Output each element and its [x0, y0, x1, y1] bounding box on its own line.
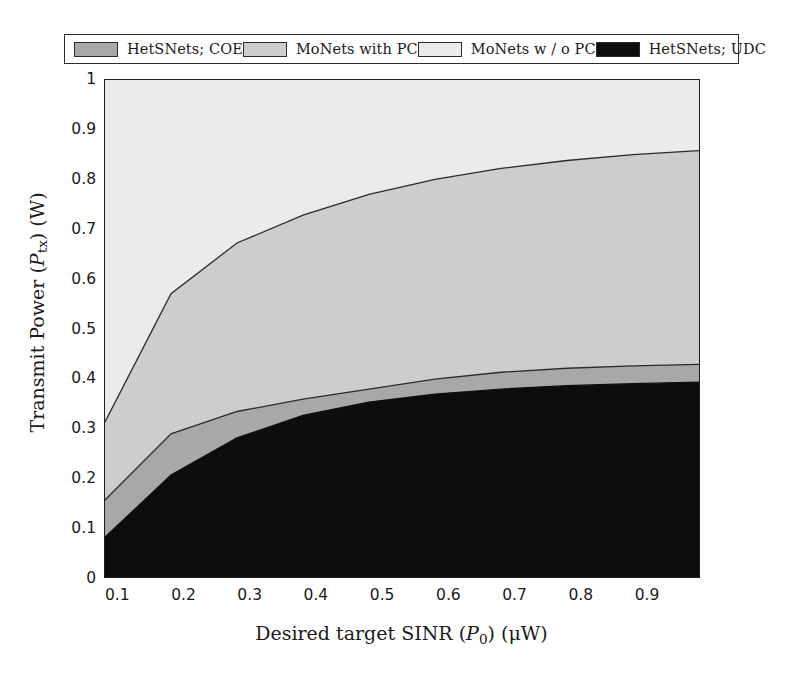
y-tick-0p4: 0.4	[58, 369, 96, 387]
y-tick-0: 0	[58, 569, 96, 587]
stacked-area-svg	[105, 80, 699, 577]
legend-label-hetsnets-coe: HetSNets; COE	[127, 41, 243, 57]
legend-swatch-monets-without-pc	[418, 42, 462, 57]
legend-label-hetsnets-udc: HetSNets; UDC	[649, 41, 766, 57]
y-axis-title-suffix: ) (W)	[26, 192, 48, 240]
legend-entry-monets-with-pc: MoNets with PC	[243, 41, 418, 57]
legend-label-monets-without-pc: MoNets w / o PC	[471, 41, 596, 57]
y-tick-0p6: 0.6	[58, 270, 96, 288]
legend-entry-monets-without-pc: MoNets w / o PC	[418, 41, 596, 57]
legend-entry-hetsnets-udc: HetSNets; UDC	[596, 41, 766, 57]
plot-area	[104, 79, 700, 578]
x-tick-0p5: 0.5	[359, 586, 405, 604]
legend-label-monets-with-pc: MoNets with PC	[296, 41, 418, 57]
y-tick-0p5: 0.5	[58, 320, 96, 338]
y-tick-0p3: 0.3	[58, 419, 96, 437]
y-axis-title-sub: tx	[34, 240, 50, 253]
y-axis-title-var: P	[26, 253, 48, 266]
y-axis-title: Transmit Power (Ptx) (W)	[26, 122, 51, 502]
x-tick-0p1: 0.1	[94, 586, 140, 604]
legend-swatch-hetsnets-udc	[596, 42, 640, 57]
x-tick-0p7: 0.7	[492, 586, 538, 604]
x-tick-0p6: 0.6	[425, 586, 471, 604]
x-tick-0p8: 0.8	[558, 586, 604, 604]
y-axis-tick-labels: 00.10.20.30.40.50.60.70.80.91	[48, 0, 96, 677]
x-axis-title-prefix: Desired target SINR (	[255, 622, 466, 644]
legend-entry-hetsnets-coe: HetSNets; COE	[74, 41, 243, 57]
y-tick-0p7: 0.7	[58, 220, 96, 238]
chart-legend: HetSNets; COE MoNets with PC MoNets w / …	[64, 34, 739, 64]
y-tick-0p2: 0.2	[58, 469, 96, 487]
legend-swatch-monets-with-pc	[243, 42, 287, 57]
x-axis-title-var: P	[466, 622, 479, 644]
x-tick-0p3: 0.3	[227, 586, 273, 604]
y-tick-0p1: 0.1	[58, 519, 96, 537]
y-tick-0p8: 0.8	[58, 170, 96, 188]
x-axis-title-suffix: ) (μW)	[488, 622, 548, 644]
x-axis-title-sub: 0	[479, 631, 488, 647]
x-axis-tick-labels: 0.10.20.30.40.50.60.70.80.9	[0, 586, 803, 610]
x-tick-0p4: 0.4	[293, 586, 339, 604]
y-axis-title-prefix: Transmit Power (	[26, 266, 48, 432]
y-tick-0p9: 0.9	[58, 120, 96, 138]
y-tick-1: 1	[58, 70, 96, 88]
x-tick-0p9: 0.9	[624, 586, 670, 604]
x-tick-0p2: 0.2	[160, 586, 206, 604]
x-axis-title: Desired target SINR (P0) (μW)	[0, 622, 803, 647]
